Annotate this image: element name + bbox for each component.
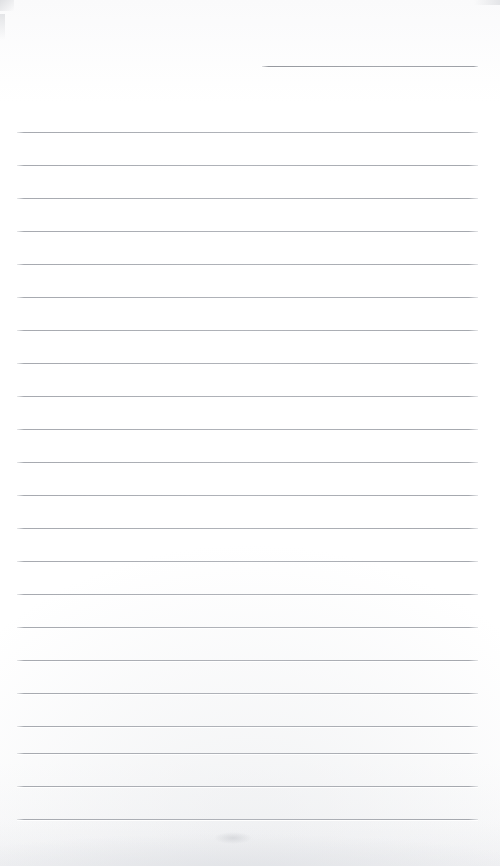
rule-line [17, 819, 478, 820]
rule-line [17, 594, 478, 595]
rule-line [17, 396, 478, 397]
rule-line [17, 132, 478, 133]
paper-background-tone [0, 0, 500, 866]
page-edge-shadow-icon [0, 822, 500, 866]
rule-line [17, 462, 478, 463]
rule-line [17, 693, 478, 694]
rule-line [17, 330, 478, 331]
rule-line [17, 561, 478, 562]
rule-line [17, 627, 478, 628]
rule-line [17, 297, 478, 298]
header-rule-line [262, 66, 478, 67]
rule-line [17, 165, 478, 166]
rule-line [17, 660, 478, 661]
rule-line [17, 753, 478, 754]
rule-line [17, 726, 478, 727]
scan-artifact-left-edge-icon [0, 14, 5, 40]
rule-line [17, 363, 478, 364]
scan-artifact-top-right-icon [474, 0, 500, 5]
ink-speck-icon [214, 832, 252, 844]
rule-line [17, 264, 478, 265]
scanned-page [0, 0, 500, 866]
rule-line [17, 231, 478, 232]
rule-line [17, 495, 478, 496]
rule-line [17, 198, 478, 199]
rule-line [17, 786, 478, 787]
rule-line [17, 429, 478, 430]
rule-line [17, 528, 478, 529]
scan-artifact-top-left-icon [0, 0, 14, 11]
